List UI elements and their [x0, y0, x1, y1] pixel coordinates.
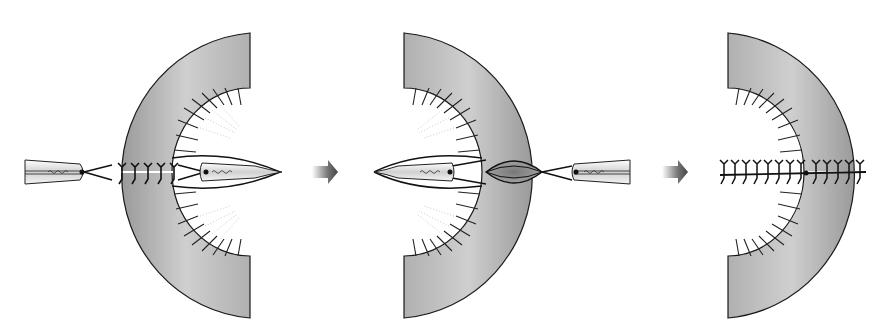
diagram-canvas [0, 0, 883, 333]
suture-diagram [0, 0, 883, 333]
panel-step-1 [25, 33, 282, 318]
tissue-ring [728, 33, 854, 318]
panel-step-2 [374, 33, 630, 318]
needle-right [200, 163, 282, 181]
needle-right [572, 160, 630, 184]
arrow-right-icon [662, 160, 688, 184]
needle-left [374, 163, 454, 181]
needle-left [25, 160, 84, 184]
panel-step-3 [720, 33, 866, 318]
arrow-right-icon [312, 160, 338, 184]
